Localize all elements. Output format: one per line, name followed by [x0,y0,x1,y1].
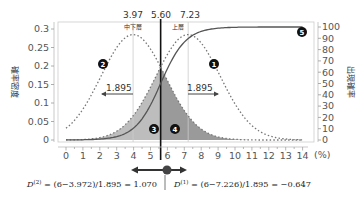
svg-text:7: 7 [181,150,187,161]
svg-text:70: 70 [322,55,334,66]
svg-text:10: 10 [229,150,241,161]
area-4 [161,67,303,140]
svg-text:12: 12 [263,150,275,161]
right-y-axis: 0102030405060708090100 [318,21,340,145]
svg-text:14: 14 [297,150,309,161]
svg-text:0.1: 0.1 [34,97,49,108]
marker-1-icon: 1 [209,59,219,69]
spread-annotation-left: 1.895 [101,83,133,97]
x-unit-label: (%) [314,149,330,160]
svg-text:0.25: 0.25 [28,42,49,53]
svg-text:100: 100 [322,21,340,32]
marker-4-icon: 4 [170,124,180,134]
right-axis-title: 出現確率 [346,66,356,98]
svg-text:30: 30 [322,100,334,111]
svg-text:80: 80 [322,44,334,55]
formula-right: D(1) = (6−7.226)/1.895 = −0.647 [173,179,311,190]
svg-text:1: 1 [80,150,86,161]
svg-text:0.3: 0.3 [34,23,49,34]
region-label-lower: 中下層 [124,23,142,31]
svg-text:13: 13 [280,150,292,161]
svg-text:20: 20 [322,112,334,123]
x-axis: 01234567891011121314 [58,147,309,161]
svg-text:0.05: 0.05 [28,116,49,127]
svg-text:40: 40 [322,89,334,100]
svg-text:0: 0 [322,134,328,145]
marker-2-icon: 2 [98,59,108,69]
chart: 00.050.10.150.20.250.3 01020304050607080… [0,0,358,198]
top-label-5.60: 5.60 [151,10,171,20]
svg-text:4: 4 [173,126,178,134]
svg-text:10: 10 [322,123,334,134]
svg-text:0.2: 0.2 [34,60,49,71]
svg-text:2: 2 [101,61,106,69]
svg-text:5: 5 [147,150,153,161]
svg-text:8: 8 [198,150,204,161]
svg-text:9: 9 [215,150,221,161]
svg-text:3: 3 [114,150,120,161]
svg-text:6: 6 [164,150,170,161]
svg-text:5: 5 [300,29,305,37]
svg-text:1.895: 1.895 [187,83,213,93]
marker-3-icon: 3 [149,124,159,134]
left-axis-title: 確率密度 [10,66,20,98]
region-label-upper: 上層 [172,23,184,31]
svg-text:0: 0 [63,150,69,161]
svg-text:11: 11 [246,150,258,161]
position-arrow [131,166,187,175]
svg-text:50: 50 [322,78,334,89]
svg-text:1.895: 1.895 [106,83,132,93]
spread-annotation-right: 1.895 [187,83,219,97]
top-label-3.97: 3.97 [123,10,143,20]
svg-text:4: 4 [131,150,137,161]
svg-text:2: 2 [97,150,103,161]
svg-text:0.15: 0.15 [28,79,49,90]
svg-text:3: 3 [152,126,157,134]
area-3 [66,67,161,140]
shaded-areas [66,67,303,140]
top-label-7.23: 7.23 [180,10,200,20]
svg-text:90: 90 [322,33,334,44]
formula-left: D(2) = (6−3.972)/1.895 = 1.070 [26,179,157,190]
svg-text:1: 1 [212,61,217,69]
svg-text:0: 0 [43,134,49,145]
svg-text:60: 60 [322,67,334,78]
marker-5-icon: 5 [297,27,307,37]
left-y-axis: 00.050.10.150.20.250.3 [28,22,54,145]
